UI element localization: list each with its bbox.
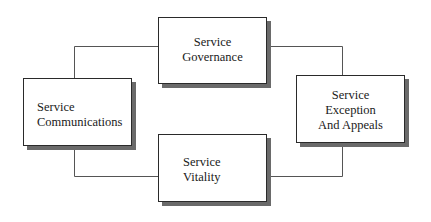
node-label-line: Governance [159,50,266,65]
node-label-line: And Appeals [297,118,404,133]
node-label-line: Service [297,88,404,103]
node-label-line: Service [37,100,122,115]
node-service-communications: Service Communications [23,78,132,146]
connector-vitality-communications [75,150,159,177]
connector-governance-exception [271,47,343,76]
connector-communications-governance [75,47,159,79]
node-label-line: Vitality [183,170,220,185]
connector-exception-vitality [271,147,343,177]
node-label: Service Vitality [183,155,220,185]
node-label: Service Governance [159,35,266,65]
node-label: Service Communications [37,100,122,130]
node-label: Service Exception And Appeals [297,88,404,133]
node-label-line: Service [183,155,220,170]
node-service-exception-and-appeals: Service Exception And Appeals [296,75,405,143]
node-label-line: Exception [297,103,404,118]
node-service-governance: Service Governance [158,17,267,84]
node-label-line: Communications [37,115,122,130]
node-label-line: Service [159,35,266,50]
node-service-vitality: Service Vitality [158,134,267,202]
diagram-canvas: Service Governance Service Communication… [0,0,431,222]
